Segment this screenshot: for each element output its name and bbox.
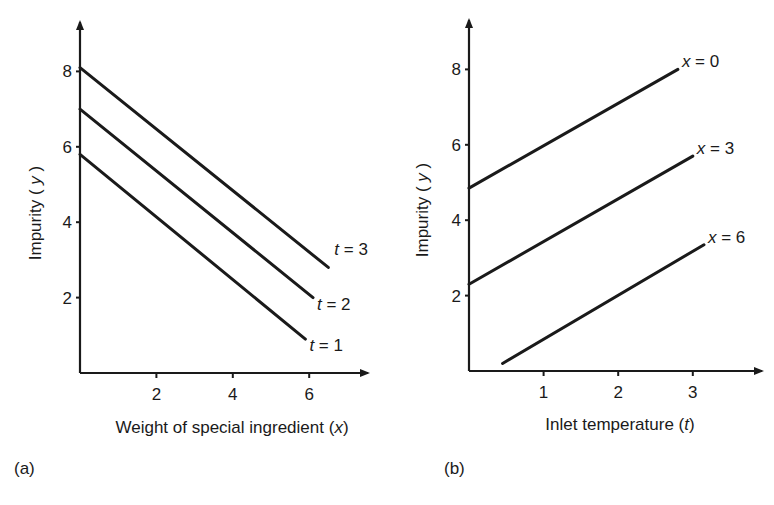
series-group-b: x = 0x = 3x = 6 xyxy=(469,52,745,363)
series-line xyxy=(469,156,693,284)
series-group-a: t = 3t = 2t = 1 xyxy=(80,68,368,355)
series-line xyxy=(469,69,678,188)
figure-svg: 2468246 t = 3t = 2t = 1 Impurity ( y ) W… xyxy=(0,0,774,505)
axes-b: 2468123 xyxy=(452,20,762,402)
y-tick-label: 2 xyxy=(63,289,72,308)
x-tick-label: 6 xyxy=(304,385,313,404)
y-tick-label: 8 xyxy=(63,62,72,81)
series-label: t = 3 xyxy=(334,240,368,259)
x-tick-label: 1 xyxy=(539,383,548,402)
y-axis-title-a: Impurity ( y ) xyxy=(26,166,45,260)
series-label: x = 3 xyxy=(696,139,734,158)
series-line xyxy=(503,245,704,364)
y-tick-label: 4 xyxy=(63,213,72,232)
y-tick-label: 6 xyxy=(452,136,461,155)
series-line xyxy=(80,68,328,268)
y-tick-label: 6 xyxy=(63,138,72,157)
x-axis-title-a: Weight of special ingredient (x) xyxy=(115,418,348,437)
y-tick-label: 2 xyxy=(452,287,461,306)
series-label: t = 2 xyxy=(317,295,351,314)
figure: 2468246 t = 3t = 2t = 1 Impurity ( y ) W… xyxy=(0,0,774,505)
panel-label-b: (b) xyxy=(444,459,465,478)
chart-panel-b: 2468123 x = 0x = 3x = 6 Impurity ( y ) I… xyxy=(413,20,762,478)
chart-panel-a: 2468246 t = 3t = 2t = 1 Impurity ( y ) W… xyxy=(14,22,368,478)
panel-label-a: (a) xyxy=(14,459,35,478)
x-tick-label: 4 xyxy=(228,385,237,404)
series-label: t = 1 xyxy=(309,336,343,355)
x-tick-label: 3 xyxy=(688,383,697,402)
series-line xyxy=(80,109,313,298)
x-tick-label: 2 xyxy=(152,385,161,404)
y-tick-label: 4 xyxy=(452,211,461,230)
series-line xyxy=(80,154,305,339)
y-tick-label: 8 xyxy=(452,60,461,79)
y-axis-title-b: Impurity ( y ) xyxy=(413,163,432,257)
x-tick-label: 2 xyxy=(613,383,622,402)
series-label: x = 6 xyxy=(707,228,745,247)
x-axis-title-b: Inlet temperature (t) xyxy=(545,415,694,434)
series-label: x = 0 xyxy=(681,52,719,71)
